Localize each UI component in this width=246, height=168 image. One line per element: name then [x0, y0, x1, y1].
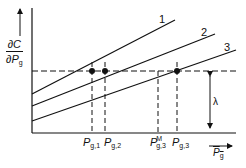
tick-pg1: Pg,1 — [83, 137, 100, 149]
line-2-label: 2 — [201, 27, 207, 38]
line-1 — [32, 20, 175, 94]
y-axis-label: ∂C ∂Pg — [6, 38, 23, 66]
tick-pg3m: PMg,3 — [150, 137, 166, 149]
line-3 — [32, 50, 236, 121]
tick-pg2: Pg,2 — [104, 137, 121, 149]
intersection-dot-3 — [174, 68, 180, 74]
diagram-canvas — [0, 0, 246, 168]
lambda-label: λ — [213, 97, 218, 107]
y-axis-label-denominator: ∂Pg — [6, 52, 23, 66]
tick-pg3: Pg,3 — [172, 137, 189, 149]
y-axis-label-numerator: ∂C — [6, 38, 23, 52]
line-3-label: 3 — [224, 42, 230, 53]
intersection-dot-1 — [89, 68, 95, 74]
x-axis-label: Pg — [213, 148, 224, 159]
line-2 — [32, 34, 215, 106]
intersection-dot-2 — [102, 68, 108, 74]
line-1-label: 1 — [159, 14, 165, 25]
